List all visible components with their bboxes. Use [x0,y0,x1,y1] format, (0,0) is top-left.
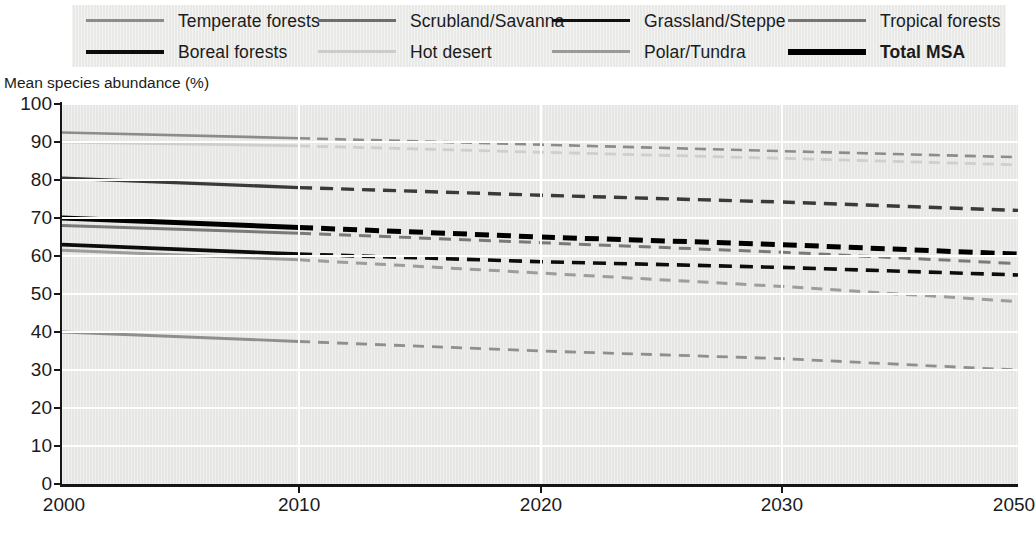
y-axis-label: 40 [6,322,52,341]
legend-swatch-hot-desert [318,50,396,53]
x-axis-tick [298,484,300,493]
series-line-tropical-forests [299,188,1018,211]
x-axis-label: 2030 [761,495,803,515]
gridline-vertical [298,104,300,484]
y-axis-tick [54,217,62,219]
legend-item-scrubland-savanna[interactable]: Scrubland/Savanna [318,12,552,30]
legend-label-boreal-forests: Boreal forests [178,43,287,61]
x-axis-label: 2050 [993,495,1035,515]
y-axis-tick [54,103,62,105]
chart-legend: Temperate forests Scrubland/Savanna Gras… [72,5,1006,67]
series-line-temperate-forests [62,133,299,139]
y-axis-tick [54,293,62,295]
y-axis-label: 20 [6,398,52,417]
y-axis-label: 80 [6,170,52,189]
x-axis-label: 2020 [520,495,562,515]
legend-item-tropical-forests[interactable]: Tropical forests [788,12,1006,30]
x-axis-label: 2000 [43,495,85,515]
y-axis-label: 30 [6,360,52,379]
legend-label-hot-desert: Hot desert [410,43,492,61]
y-axis-tick [54,407,62,409]
legend-label-temperate-forests: Temperate forests [178,12,320,30]
y-axis-tick [54,179,62,181]
legend-item-polar-tundra[interactable]: Polar/Tundra [552,43,788,61]
y-axis-tick [54,369,62,371]
legend-item-grassland-steppe[interactable]: Grassland/Steppe [552,12,788,30]
y-axis-label: 60 [6,246,52,265]
legend-swatch-grassland-steppe [552,19,630,22]
legend-item-temperate-forests[interactable]: Temperate forests [72,12,318,30]
legend-label-grassland-steppe: Grassland/Steppe [644,12,786,30]
legend-item-boreal-forests[interactable]: Boreal forests [72,43,318,61]
y-axis-title: Mean species abundance (%) [4,74,209,92]
legend-label-total-msa: Total MSA [880,43,965,61]
gridline-vertical [540,104,542,484]
legend-item-total-msa[interactable]: Total MSA [788,43,1006,61]
legend-swatch-temperate-forests [86,19,164,22]
x-axis-tick [540,484,542,493]
legend-item-hot-desert[interactable]: Hot desert [318,43,552,61]
legend-swatch-boreal-forests [86,50,164,54]
series-line-hot-desert [299,146,1018,165]
legend-label-tropical-forests: Tropical forests [880,12,1001,30]
series-line-total-msa [299,228,1018,255]
y-axis-tick [54,331,62,333]
y-axis-label: 50 [6,284,52,303]
y-axis-label: 10 [6,436,52,455]
y-axis-label: 0 [6,474,52,493]
y-axis-label: 90 [6,132,52,151]
legend-label-scrubland-savanna: Scrubland/Savanna [410,12,564,30]
y-axis-tick [54,255,62,257]
x-axis-label: 2010 [278,495,320,515]
legend-swatch-tropical-forests [788,19,866,22]
legend-label-polar-tundra: Polar/Tundra [644,43,746,61]
series-line-polar-tundra [62,332,299,342]
y-axis-tick [54,445,62,447]
series-line-polar-tundra [299,342,1018,371]
x-axis-tick [781,484,783,493]
y-axis-label: 70 [6,208,52,227]
y-axis-label: 100 [6,94,52,113]
legend-swatch-polar-tundra [552,50,630,53]
legend-swatch-total-msa [788,49,866,55]
gridline-vertical [781,104,783,484]
y-axis-tick [54,483,62,485]
legend-row-1: Temperate forests Scrubland/Savanna Gras… [72,5,1006,36]
plot-area [62,104,1018,484]
y-axis-tick [54,141,62,143]
legend-swatch-scrubland-savanna [318,19,396,22]
legend-row-2: Boreal forests Hot desert Polar/Tundra T… [72,36,1006,67]
